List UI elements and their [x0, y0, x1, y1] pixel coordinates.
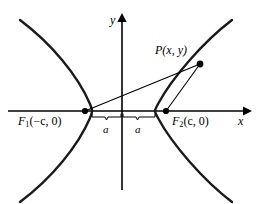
focus-left-coords: (−c, 0): [29, 114, 61, 128]
focus-right-coords: (c, 0): [183, 114, 208, 128]
y-axis-arrowhead: [117, 13, 126, 22]
point-p-label: P(x, y): [155, 44, 187, 56]
hyperbola-figure: y x F1(−c, 0) F2(c, 0) P(x, y) a a: [0, 0, 263, 204]
focus-left-dot: [82, 108, 88, 114]
brace-left-a: [92, 114, 121, 120]
y-axis-label: y: [110, 14, 115, 26]
focus-right-label: F2(c, 0): [172, 115, 209, 129]
focus-left-label: F1(−c, 0): [18, 115, 62, 129]
semi-axis-left-label: a: [103, 124, 109, 135]
x-axis-arrowhead: [243, 106, 252, 115]
y-axis: [117, 13, 126, 190]
focus-right-dot: [163, 108, 169, 114]
x-axis-label: x: [238, 115, 243, 127]
brace-right-a: [123, 114, 155, 120]
semi-axis-right-label: a: [135, 124, 141, 135]
diagram-canvas: [0, 0, 263, 204]
point-p-dot: [197, 61, 204, 68]
